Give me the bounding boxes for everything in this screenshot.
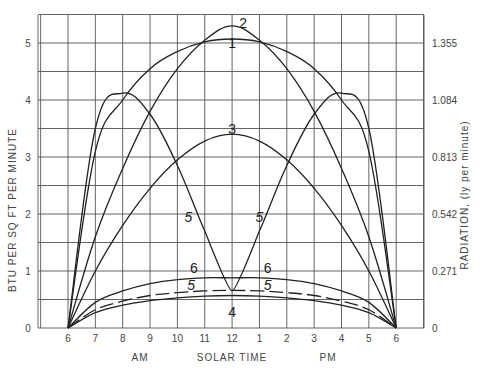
x-tick: 6 [393, 333, 399, 344]
y-right-tick: 0.542 [432, 209, 457, 220]
y-axis-label: BTU PER SQ FT PER MINUTE [7, 128, 18, 292]
x-tick: 1 [257, 333, 263, 344]
x-axis-label: SOLAR TIME [197, 352, 267, 363]
x-tick: 6 [65, 333, 71, 344]
y-right-tick: 1.355 [432, 38, 457, 49]
x-tick: 2 [284, 333, 290, 344]
x-tick: 9 [147, 333, 153, 344]
y-right-tick-labels: 00.2710.5420.8131.0841.355 [432, 38, 457, 334]
curve-label: 1 [228, 35, 236, 51]
curve-label: 5 [184, 209, 192, 225]
x-tick: 3 [311, 333, 317, 344]
x-tick: 8 [120, 333, 126, 344]
curve-label: 5 [256, 209, 264, 225]
y-right-tick: 0 [432, 323, 438, 334]
y-tick: 5 [25, 38, 31, 49]
solar-radiation-chart: 6789101112123456 012345 00.2710.5420.813… [0, 0, 490, 368]
y-right-tick: 0.271 [432, 266, 457, 277]
curve-label: 4 [228, 304, 236, 320]
x-tick: 12 [227, 333, 239, 344]
y-tick: 2 [25, 209, 31, 220]
x-label-am: AM [132, 352, 149, 363]
y-right-tick: 0.813 [432, 152, 457, 163]
y-tick-labels: 012345 [25, 38, 31, 334]
curve-label: 6 [264, 260, 272, 276]
y-tick: 1 [25, 266, 31, 277]
x-tick: 7 [93, 333, 99, 344]
grid [38, 15, 424, 329]
x-tick: 11 [200, 333, 211, 344]
y-right-tick: 1.084 [432, 95, 457, 106]
y-tick: 0 [25, 323, 31, 334]
y-axis-right-label: RADIATION, (ly per minute) [459, 120, 470, 269]
curve-label: 2 [239, 15, 247, 31]
curve-label: 5 [264, 277, 272, 293]
x-tick-labels: 6789101112123456 [65, 333, 399, 344]
x-label-pm: PM [320, 352, 337, 363]
y-tick: 3 [25, 152, 31, 163]
x-tick: 10 [172, 333, 184, 344]
curve-label: 6 [190, 260, 198, 276]
curve-labels: 1235566554 [184, 15, 271, 320]
x-tick: 4 [339, 333, 345, 344]
curve-label: 3 [228, 121, 236, 137]
curve-label: 5 [187, 277, 195, 293]
y-tick: 4 [25, 95, 31, 106]
x-tick: 5 [366, 333, 372, 344]
